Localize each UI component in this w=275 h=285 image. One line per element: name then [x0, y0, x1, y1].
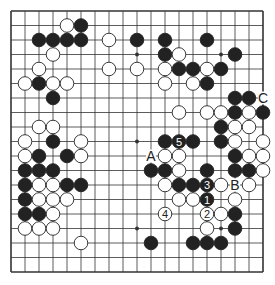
white-stone: [74, 135, 88, 149]
white-stone: [32, 62, 46, 76]
white-stone: [200, 62, 214, 76]
white-stone: [186, 77, 200, 91]
white-stone: [158, 77, 172, 91]
mark-a: A: [146, 148, 156, 164]
white-stone: [242, 178, 256, 192]
move-2-white-stone: 2: [200, 207, 214, 221]
black-stone: [228, 149, 242, 163]
white-stone: [228, 135, 242, 149]
white-stone: [102, 33, 116, 47]
white-stone: [32, 222, 46, 236]
black-stone: [74, 19, 88, 33]
black-stone: [172, 178, 186, 192]
black-stone: [186, 135, 200, 149]
star-point: [135, 227, 139, 231]
white-stone: [18, 135, 32, 149]
black-stone: [186, 62, 200, 76]
black-stone: [172, 62, 186, 76]
black-stone: [214, 120, 228, 134]
black-stone: [256, 106, 270, 120]
white-stone: [46, 207, 60, 221]
move-5-black-stone: 5: [172, 135, 186, 149]
black-stone: [18, 207, 32, 221]
black-stone: [60, 178, 74, 192]
black-stone: [158, 48, 172, 62]
white-stone: [186, 193, 200, 207]
white-stone: [18, 149, 32, 163]
move-1-black-stone: 1: [200, 193, 214, 207]
black-stone: [18, 193, 32, 207]
black-stone: [60, 33, 74, 47]
black-stone: [46, 135, 60, 149]
black-stone: [214, 135, 228, 149]
white-stone: [32, 120, 46, 134]
black-stone: [74, 178, 88, 192]
star-point: [219, 227, 223, 231]
black-stone: [200, 236, 214, 250]
move-4-white-stone: 4: [158, 207, 172, 221]
white-stone: [158, 62, 172, 76]
go-board: 12345 ABC: [0, 0, 275, 285]
black-stone: [228, 207, 242, 221]
black-stone: [60, 149, 74, 163]
white-stone: [60, 19, 74, 33]
white-stone: [256, 149, 270, 163]
move-3-black-stone: 3: [200, 178, 214, 192]
white-stone: [60, 77, 74, 91]
white-stone: [46, 77, 60, 91]
black-stone: [32, 149, 46, 163]
white-stone: [256, 164, 270, 178]
black-stone: [228, 222, 242, 236]
star-point: [135, 140, 139, 144]
black-stone: [158, 164, 172, 178]
white-stone: [130, 62, 144, 76]
black-stone: [46, 91, 60, 105]
black-stone: [32, 33, 46, 47]
white-stone: [158, 178, 172, 192]
white-stone: [46, 120, 60, 134]
black-stone: [228, 106, 242, 120]
move-number-label: 5: [176, 136, 182, 148]
white-stone: [102, 62, 116, 76]
white-stone: [200, 222, 214, 236]
mark-c: C: [258, 90, 268, 106]
white-stone: [172, 149, 186, 163]
white-stone: [158, 149, 172, 163]
black-stone: [242, 164, 256, 178]
star-point: [135, 53, 139, 57]
black-stone: [228, 48, 242, 62]
white-stone: [46, 48, 60, 62]
black-stone: [214, 236, 228, 250]
white-stone: [172, 48, 186, 62]
white-stone: [74, 149, 88, 163]
black-stone: [18, 178, 32, 192]
mark-b: B: [230, 177, 240, 193]
white-stone: [46, 193, 60, 207]
white-stone: [46, 178, 60, 192]
black-stone: [144, 164, 158, 178]
black-stone: [32, 207, 46, 221]
white-stone: [172, 164, 186, 178]
move-number-label: 2: [204, 208, 210, 220]
white-stone: [172, 106, 186, 120]
black-stone: [200, 33, 214, 47]
white-stone: [46, 222, 60, 236]
black-stone: [242, 91, 256, 105]
black-stone: [158, 33, 172, 47]
move-number-label: 1: [204, 194, 210, 206]
mark-label: C: [258, 90, 268, 106]
black-stone: [46, 33, 60, 47]
black-stone: [186, 236, 200, 250]
black-stone: [130, 33, 144, 47]
white-stone: [60, 193, 74, 207]
black-stone: [46, 164, 60, 178]
white-stone: [172, 193, 186, 207]
white-stone: [74, 236, 88, 250]
white-stone: [214, 178, 228, 192]
black-stone: [214, 62, 228, 76]
black-stone: [144, 236, 158, 250]
black-stone: [200, 164, 214, 178]
black-stone: [32, 164, 46, 178]
black-stone: [74, 33, 88, 47]
white-stone: [242, 120, 256, 134]
